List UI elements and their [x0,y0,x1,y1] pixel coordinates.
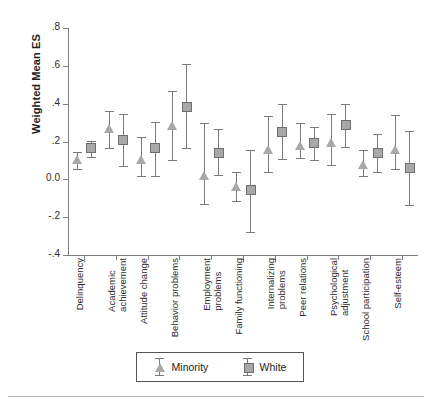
error-bar-cap [327,114,336,115]
error-bar-cap [87,141,96,142]
triangle-marker-icon [154,357,166,377]
triangle-marker-icon [136,155,146,164]
error-bar-cap [359,176,368,177]
error-bar-cap [391,115,400,116]
y-tick-label: -.2 [48,210,60,221]
square-marker-icon [242,357,254,377]
y-tick-label: .2 [52,135,60,146]
triangle-marker-icon [295,141,305,150]
triangle-marker-icon [104,124,114,133]
square-marker-icon [246,185,256,195]
x-axis-label-5: Family functioning [234,258,245,335]
error-bar-cap [359,150,368,151]
error-bar-cap [246,232,255,233]
y-tick: .6 [63,66,68,67]
error-bar-cap [264,116,273,117]
x-axis-label-3: Behavior problems [170,258,181,337]
error-bar-cap [182,148,191,149]
y-tick-label: -.4 [48,248,60,259]
x-axis-label-7: Peer relations [298,258,309,317]
square-marker-icon [182,102,192,112]
error-bar-cap [405,131,414,132]
error-bar-cap [73,169,82,170]
y-tick: 0.0 [63,179,68,180]
triangle-marker-icon [199,171,209,180]
square-marker-icon [277,127,287,137]
x-axis-category-labels: DelinquencyAcademic achievementAttitude … [68,258,418,353]
error-bar-cap [137,137,146,138]
error-bar-cap [310,160,319,161]
x-axis-label-9: School participation [361,258,372,341]
error-bar-cap [310,127,319,128]
error-bar [204,123,205,204]
error-bar [395,115,396,169]
y-tick: -.2 [63,217,68,218]
legend-item-white: White [242,357,287,377]
x-axis-label-6: Internalizing problems [266,258,287,309]
error-bar-cap [232,201,241,202]
legend-item-minority: Minority [154,357,209,377]
error-bar-cap [168,91,177,92]
square-marker-icon [214,148,224,158]
error-bar-cap [137,176,146,177]
square-marker-icon [309,138,319,148]
square-marker-icon [150,143,160,153]
error-bar-cap [200,204,209,205]
square-marker-icon [405,163,415,173]
error-bar-cap [119,114,128,115]
triangle-marker-icon [326,138,336,147]
error-bar-cap [232,172,241,173]
triangle-marker-icon [167,121,177,130]
error-bar-cap [151,176,160,177]
error-bar-cap [182,64,191,65]
error-bar-cap [168,160,177,161]
error-bar-cap [87,157,96,158]
error-bar-cap [341,147,350,148]
y-axis-title: Weighted Mean ES [30,4,42,164]
x-axis-label-0: Delinquency [75,258,86,310]
square-marker-icon [86,143,96,153]
y-tick-label: 0.0 [46,172,60,183]
y-tick: .4 [63,104,68,105]
legend: Minority White [136,352,304,382]
triangle-marker-icon [72,155,82,164]
triangle-marker-icon [231,182,241,191]
error-bar-cap [105,148,114,149]
legend-label-minority: Minority [172,361,209,373]
triangle-marker-icon [390,145,400,154]
figure: Weighted Mean ES .8.6.4.20.0-.2-.4 Delin… [0,0,432,406]
error-bar-cap [214,175,223,176]
y-tick: -.4 [63,255,68,256]
error-bar-cap [327,165,336,166]
error-bar [268,116,269,172]
y-tick: .2 [63,142,68,143]
error-bar-cap [200,123,209,124]
plot-area: .8.6.4.20.0-.2-.4 [68,28,418,255]
y-axis-line [68,28,69,255]
y-tick-label: .6 [52,59,60,70]
error-bar-cap [214,129,223,130]
error-bar [300,123,301,158]
error-bar-cap [341,104,350,105]
error-bar-cap [105,111,114,112]
error-bar-cap [405,205,414,206]
error-bar-cap [296,123,305,124]
square-marker-icon [341,120,351,130]
x-axis-label-8: Psychological adjustment [329,258,350,316]
error-bar-cap [373,172,382,173]
error-bar-cap [296,158,305,159]
error-bar-cap [373,134,382,135]
y-tick-label: .4 [52,97,60,108]
x-axis-label-4: Employment problems [202,258,223,311]
y-tick-label: .8 [52,21,60,32]
triangle-marker-icon [263,145,273,154]
triangle-marker-icon [358,160,368,169]
error-bar-cap [73,152,82,153]
square-marker-icon [373,148,383,158]
error-bar-cap [264,172,273,173]
legend-label-white: White [260,361,287,373]
y-tick: .8 [63,28,68,29]
bottom-divider [8,396,424,397]
error-bar-cap [246,150,255,151]
square-marker-icon [118,135,128,145]
